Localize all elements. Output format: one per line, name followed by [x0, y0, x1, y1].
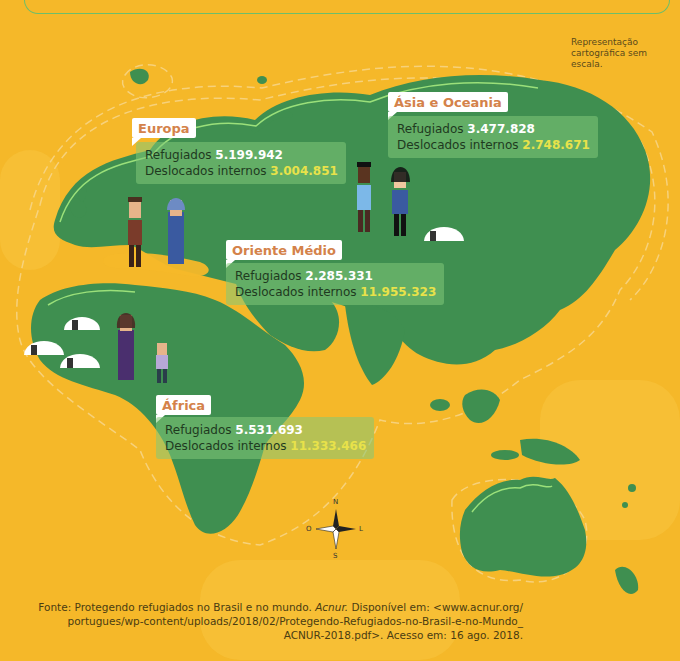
region-stats: Refugiados 5.531.693 Deslocados internos…: [156, 417, 374, 459]
region-stats: Refugiados 3.477.828 Deslocados internos…: [388, 116, 598, 158]
refugiados-value: 3.477.828: [467, 122, 535, 136]
deslocados-label: Deslocados internos: [165, 439, 286, 453]
compass-n: N: [333, 498, 338, 506]
deslocados-value: 11.333.466: [290, 439, 366, 453]
region-stats: Refugiados 2.285.331 Deslocados internos…: [226, 263, 444, 305]
refugiados-label: Refugiados: [397, 122, 464, 136]
deslocados-value: 3.004.851: [270, 164, 338, 178]
source-prefix: Fonte: Protegendo refugiados no Brasil e…: [38, 601, 315, 613]
refugiados-label: Refugiados: [235, 269, 302, 283]
compass-s: S: [333, 552, 337, 560]
compass-rose-icon: N S L O: [312, 505, 360, 553]
source-citation: Fonte: Protegendo refugiados no Brasil e…: [10, 600, 523, 642]
refugiados-value: 5.199.942: [215, 148, 283, 162]
region-label: Ásia e Oceania: [388, 92, 508, 112]
source-line2: portugues/wp-content/uploads/2018/02/Pro…: [10, 614, 523, 628]
deslocados-value: 11.955.323: [360, 285, 436, 299]
region-label: África: [156, 395, 211, 415]
refugiados-label: Refugiados: [145, 148, 212, 162]
compass-o: O: [306, 525, 312, 533]
source-line1: Disponível em: <www.acnur.org/: [348, 601, 523, 613]
refugiados-value: 5.531.693: [235, 423, 303, 437]
deslocados-value: 2.748.671: [522, 138, 590, 152]
refugiados-label: Refugiados: [165, 423, 232, 437]
region-stats: Refugiados 5.199.942 Deslocados internos…: [136, 142, 346, 184]
source-publisher: Acnur.: [315, 601, 348, 613]
deslocados-label: Deslocados internos: [235, 285, 356, 299]
region-label: Oriente Médio: [226, 240, 342, 260]
scale-note: Representação cartográfica sem escala.: [571, 37, 661, 70]
source-line3: ACNUR-2018.pdf>. Acesso em: 16 ago. 2018…: [10, 628, 523, 642]
refugiados-value: 2.285.331: [305, 269, 373, 283]
region-label: Europa: [132, 118, 196, 138]
deslocados-label: Deslocados internos: [145, 164, 266, 178]
compass-l: L: [359, 525, 363, 533]
deslocados-label: Deslocados internos: [397, 138, 518, 152]
